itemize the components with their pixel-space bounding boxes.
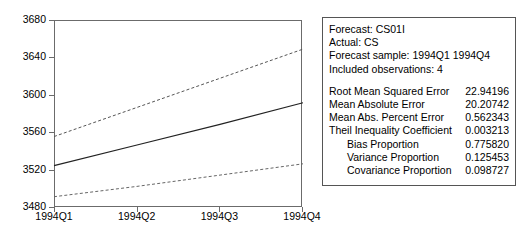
forecast-statistics-panel: Forecast: CS01IActual: CSForecast sample… xyxy=(322,17,516,186)
statistic-value: 0.562343 xyxy=(465,111,509,124)
confidence-band-line xyxy=(54,49,303,136)
y-axis-tick-label: 3680 xyxy=(0,14,46,25)
statistic-value: 0.125453 xyxy=(465,151,509,164)
statistic-value: 20.20742 xyxy=(465,98,509,111)
forecast-evaluation-window: 348035203560360036403680 1994Q11994Q2199… xyxy=(0,0,526,243)
y-axis-tick-label: 3520 xyxy=(0,164,46,175)
statistic-row: Mean Abs. Percent Error0.562343 xyxy=(329,111,509,124)
statistic-row: Mean Absolute Error20.20742 xyxy=(329,98,509,111)
statistic-row: Root Mean Squared Error22.94196 xyxy=(329,85,509,98)
forecast-statistics-header: Forecast: CS01IActual: CSForecast sample… xyxy=(329,23,509,76)
x-axis-tick-label: 1994Q4 xyxy=(267,211,337,222)
statistic-label: Root Mean Squared Error xyxy=(329,85,455,98)
statistic-label: Bias Proportion xyxy=(329,138,425,151)
statistic-label: Variance Proportion xyxy=(329,151,445,164)
statistic-value: 0.775820 xyxy=(465,138,509,151)
x-axis-tick-label: 1994Q3 xyxy=(184,211,254,222)
statistic-row: Theil Inequality Coefficient0.003213 xyxy=(329,124,509,137)
forecast-series-group xyxy=(54,20,303,208)
statistic-row: Bias Proportion0.775820 xyxy=(329,138,509,151)
forecast-line xyxy=(54,103,303,166)
y-axis-tick-label: 3560 xyxy=(0,126,46,137)
x-axis-tick-label: 1994Q1 xyxy=(19,211,89,222)
forecast-chart: 348035203560360036403680 1994Q11994Q2199… xyxy=(0,0,318,243)
forecast-info-line: Actual: CS xyxy=(329,36,509,49)
forecast-info-line: Included observations: 4 xyxy=(329,63,509,76)
forecast-statistics-metrics: Root Mean Squared Error22.94196Mean Abso… xyxy=(329,85,509,177)
statistic-value: 0.098727 xyxy=(465,164,509,177)
x-axis-tick-label: 1994Q2 xyxy=(102,211,172,222)
stats-spacer xyxy=(329,76,509,85)
forecast-info-line: Forecast sample: 1994Q1 1994Q4 xyxy=(329,49,509,62)
y-axis-tick-label: 3600 xyxy=(0,89,46,100)
statistic-value: 0.003213 xyxy=(465,124,509,137)
statistic-label: Covariance Proportion xyxy=(329,164,457,177)
y-axis-tick-label: 3640 xyxy=(0,51,46,62)
forecast-info-line: Forecast: CS01I xyxy=(329,23,509,36)
statistic-label: Mean Abs. Percent Error xyxy=(329,111,450,124)
statistic-label: Mean Absolute Error xyxy=(329,98,431,111)
statistic-row: Covariance Proportion0.098727 xyxy=(329,164,509,177)
statistic-label: Theil Inequality Coefficient xyxy=(329,124,458,137)
statistic-value: 22.94196 xyxy=(465,85,509,98)
statistic-row: Variance Proportion0.125453 xyxy=(329,151,509,164)
confidence-band-line xyxy=(54,164,303,197)
